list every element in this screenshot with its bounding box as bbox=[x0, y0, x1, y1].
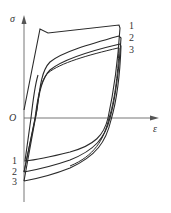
loop-curve-1 bbox=[24, 25, 120, 161]
x-axis-label: ε bbox=[153, 124, 157, 134]
x-axis-arrow-icon bbox=[150, 116, 159, 121]
origin-label: O bbox=[9, 113, 16, 123]
curve-1-top-label: 1 bbox=[129, 21, 134, 31]
curve-1-bottom-label: 1 bbox=[12, 156, 17, 166]
curve-2-top-label: 2 bbox=[129, 33, 134, 43]
curve-3-bottom-label: 3 bbox=[12, 177, 17, 187]
loop-curve-2-inner bbox=[24, 48, 119, 172]
hysteresis-diagram bbox=[0, 0, 171, 213]
curve-3-top-label: 3 bbox=[129, 45, 134, 55]
y-axis-arrow-icon bbox=[22, 15, 27, 24]
y-axis-label: σ bbox=[10, 14, 15, 24]
loop-curve-3 bbox=[24, 44, 121, 181]
